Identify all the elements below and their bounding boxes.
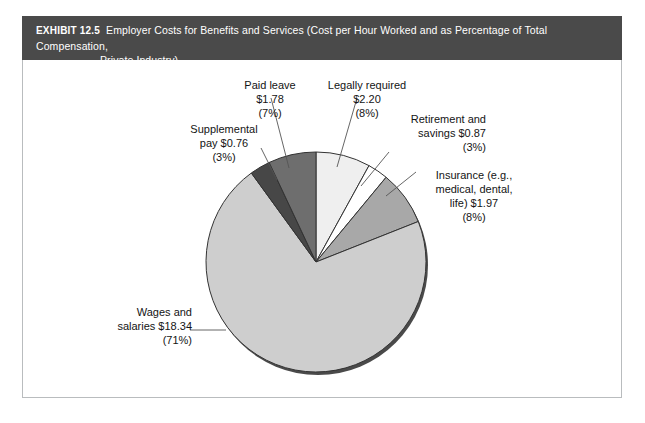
callout-wages-salaries: Wages and salaries $18.34 (71%): [70, 305, 192, 347]
exhibit-header: EXHIBIT 12.5Employer Costs for Benefits …: [22, 16, 622, 60]
exhibit-title-line1: Employer Costs for Benefits and Services…: [36, 24, 547, 52]
callout-paid-leave: Paid leave $1.78 (7%): [218, 78, 322, 120]
exhibit-number: EXHIBIT 12.5: [36, 25, 100, 36]
exhibit-figure: EXHIBIT 12.5Employer Costs for Benefits …: [0, 0, 645, 423]
callout-retirement-savings: Retirement and savings $0.87 (3%): [378, 112, 486, 154]
callout-insurance: Insurance (e.g., medical, dental, life) …: [420, 168, 528, 224]
callout-supplemental-pay: Supplemental pay $0.76 (3%): [172, 122, 276, 164]
